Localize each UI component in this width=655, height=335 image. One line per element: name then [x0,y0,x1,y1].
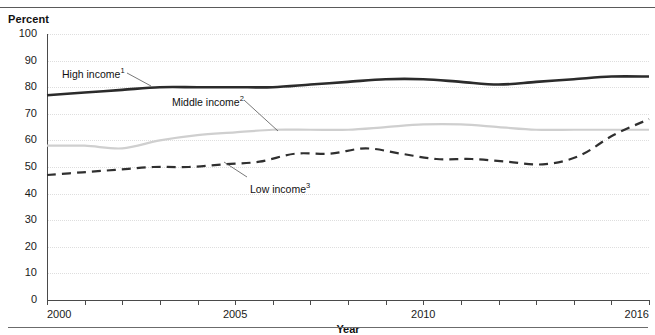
y-axis-unit-label: Percent [8,13,49,25]
x-tick-label-2005: 2005 [223,308,247,320]
x-tick-2004 [198,300,199,305]
x-tick-2015 [611,300,612,305]
y-tick-label-0: 0 [0,293,37,305]
series-label-middle-income: Middle income2 [172,94,244,108]
bottom-page-rule [8,327,648,328]
y-tick-label-100: 100 [0,27,37,39]
high-income-label-text: High income [62,68,120,80]
x-tick-2016 [649,300,650,305]
x-tick-2003 [160,300,161,305]
x-tick-label-2000: 2000 [47,308,71,320]
high-income-footnote-marker: 1 [120,66,124,75]
clipped-headline-text [96,0,566,1]
middle-income-label-text: Middle income [172,96,240,108]
y-tick-label-90: 90 [0,54,37,66]
middle-income-footnote-marker: 2 [240,94,244,103]
y-tick-label-10: 10 [0,266,37,278]
x-tick-label-2016: 2016 [625,308,649,320]
x-tick-2006 [273,300,274,305]
low-income-footnote-marker: 3 [306,181,310,190]
series-line-low-income [47,119,649,175]
y-tick-label-80: 80 [0,80,37,92]
y-tick-label-30: 30 [0,213,37,225]
chart-figure: Percent 0102030405060708090100 200020052… [0,0,655,335]
x-tick-label-2010: 2010 [411,308,435,320]
y-tick-label-60: 60 [0,133,37,145]
x-tick-2008 [348,300,349,305]
x-tick-2002 [122,300,123,305]
series-lines [47,34,649,300]
series-line-middle-income [47,124,649,148]
x-tick-2012 [499,300,500,305]
y-tick-label-40: 40 [0,187,37,199]
plot-area: 0102030405060708090100 2000200520102016 … [47,34,649,300]
series-label-low-income: Low income3 [250,181,310,195]
x-tick-2014 [574,300,575,305]
series-line-high-income [47,76,649,95]
series-label-high-income: High income1 [62,66,125,80]
y-tick-label-50: 50 [0,160,37,172]
x-tick-2009 [386,300,387,305]
x-tick-2000 [47,300,48,305]
x-tick-2005 [235,300,236,305]
top-page-rule [0,7,655,8]
y-tick-label-70: 70 [0,107,37,119]
x-tick-2011 [461,300,462,305]
x-tick-2001 [85,300,86,305]
x-tick-2007 [310,300,311,305]
x-axis-title: Year [47,323,649,335]
low-income-label-text: Low income [250,183,306,195]
y-tick-label-20: 20 [0,240,37,252]
x-tick-2010 [423,300,424,305]
x-tick-2013 [536,300,537,305]
